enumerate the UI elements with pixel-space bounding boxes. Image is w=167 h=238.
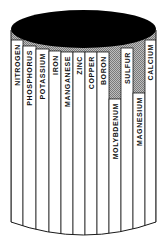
stave-label-potassium: POTASSIUM — [39, 53, 46, 100]
stave-label-nitrogen: NITROGEN — [14, 44, 21, 86]
stave-label-zinc: ZINC — [76, 56, 83, 75]
nutrient-barrel-diagram: NITROGENPHOSPHORUSPOTASSIUMIRONMANGANESE… — [0, 0, 167, 238]
stave-label-magnesium: MAGNESIUM — [136, 97, 143, 146]
stave-label-molybdenum: MOLYBDENUM — [112, 103, 119, 159]
stave-label-calcium: CALCIUM — [147, 44, 154, 80]
stave-label-phosphorus: PHOSPHORUS — [26, 50, 33, 106]
stave-label-boron: BORON — [100, 56, 107, 85]
barrel-top — [11, 10, 156, 48]
stave-label-sulfur: SULFUR — [124, 52, 131, 84]
stave-zinc — [73, 52, 85, 238]
stave-iron — [49, 51, 61, 238]
stave-label-manganese: MANGANESE — [64, 56, 71, 107]
stave-label-iron: IRON — [52, 55, 59, 75]
stave-label-copper: COPPER — [88, 56, 95, 89]
